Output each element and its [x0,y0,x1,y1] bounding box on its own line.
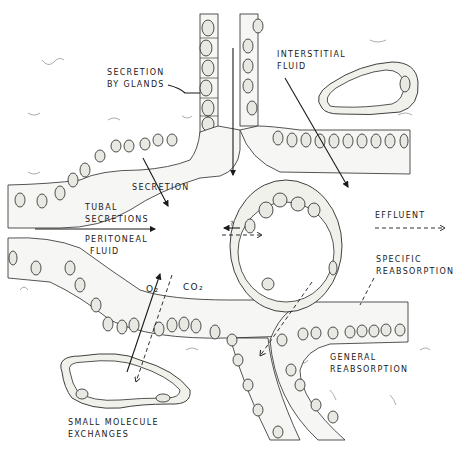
label-peritoneal-fluid-line2: FLUID [90,246,120,258]
label-small-molecule-line2: EXCHANGES [68,429,129,441]
label-interstitial-fluid-line1: INTERSTITIAL [277,49,346,61]
label-peritoneal-fluid-line1: PERITONEAL [85,234,148,246]
label-secretion-by-glands-line2: BY GLANDS [107,79,165,91]
label-specific-reabsorption-line2: REABSORPTION [376,266,454,278]
specific-reabsorption-pointer [360,278,374,305]
capillary-upper-right [318,62,418,115]
label-tubal-secretions-line1: TUBAL [85,202,118,214]
label-co2: CO₂ [183,281,204,293]
label-question-mark: ? [230,218,235,230]
capillary-lower-left [61,354,190,409]
label-general-reabsorption-line1: GENERAL [330,352,377,364]
epithelium-illustration [0,0,455,451]
label-general-reabsorption-line2: REABSORPTION [330,364,408,376]
label-o2: O₂ [146,283,159,295]
label-small-molecule-line1: SMALL MOLECULE [68,417,159,429]
upper-left-epithelium [8,126,240,228]
upper-right-epithelium [240,126,410,174]
label-tubal-secretions-line2: SECRETIONS [85,214,149,226]
label-effluent: EFFLUENT [375,210,426,222]
label-secretion: SECRETION [132,182,190,194]
central-sphere [230,180,342,312]
gland-epithelium [200,14,263,134]
label-specific-reabsorption-line1: SPECIFIC [376,254,422,266]
diagram-canvas: SECRETION BY GLANDS INTERSTITIAL FLUID S… [0,0,455,451]
label-secretion-by-glands-line1: SECRETION [107,67,165,79]
label-interstitial-fluid-line2: FLUID [277,61,307,73]
